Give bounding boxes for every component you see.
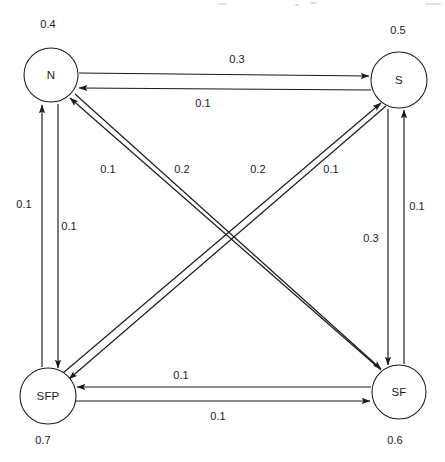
- edge-weight-s-sf: 0.3: [363, 232, 379, 244]
- edge-weight-sfp-sf: 0.1: [210, 410, 226, 422]
- edge-weight-sfp-s: 0.1: [100, 163, 116, 175]
- edge-weight-s-n: 0.1: [195, 97, 211, 109]
- edge-s-to-n: [79, 88, 371, 90]
- node-label-sfp: SFP: [37, 390, 60, 402]
- state-probability-s: 0.5: [390, 24, 406, 36]
- edge-sf-to-n: [70, 98, 381, 370]
- state-probability-sf: 0.6: [387, 434, 403, 446]
- edge-weight-n-s: 0.3: [229, 53, 245, 65]
- edge-weight-n-sfp: 0.1: [61, 220, 77, 232]
- edge-n-to-s: [79, 73, 369, 76]
- diagram-canvas: 0.30.10.10.10.10.30.10.20.20.10.10.1N0.4…: [0, 0, 445, 462]
- edge-sfp-to-s: [63, 103, 381, 373]
- edge-weight-s-sfp: 0.2: [174, 163, 190, 175]
- edge-n-to-sf: [75, 94, 381, 369]
- node-label-n: N: [47, 69, 56, 81]
- state-probability-sfp: 0.7: [35, 434, 51, 446]
- edge-weight-sf-n: 0.2: [250, 163, 266, 175]
- edge-weight-sfp-n: 0.1: [16, 198, 32, 210]
- edges-group: [42, 73, 404, 401]
- edge-s-to-sfp: [69, 106, 386, 379]
- node-label-s: S: [395, 74, 403, 86]
- state-probability-n: 0.4: [40, 18, 56, 30]
- node-label-sf: SF: [391, 386, 406, 398]
- edge-weight-sf-s: 0.1: [409, 200, 425, 212]
- edge-weight-sf-sfp: 0.1: [173, 369, 189, 381]
- edge-weight-n-sf: 0.1: [323, 163, 339, 175]
